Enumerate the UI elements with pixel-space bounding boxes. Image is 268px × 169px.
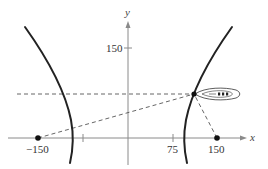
hyperbola-diagram: x y −150 75 150 150 bbox=[0, 0, 268, 169]
tick-label-neg150: −150 bbox=[26, 143, 49, 155]
boat-icon bbox=[195, 88, 240, 100]
tick-label-y150: 150 bbox=[106, 42, 123, 54]
left-focus-point bbox=[35, 135, 41, 141]
dashed-line-left-focus bbox=[38, 94, 194, 138]
dashed-line-right-focus bbox=[194, 94, 217, 138]
ship-point bbox=[191, 91, 196, 96]
right-focus-point bbox=[214, 135, 220, 141]
tick-label-75: 75 bbox=[167, 143, 179, 155]
x-axis-label: x bbox=[249, 131, 255, 143]
y-axis-arrow-icon bbox=[126, 21, 131, 28]
y-axis-label: y bbox=[124, 6, 130, 18]
tick-label-150: 150 bbox=[208, 143, 225, 155]
x-axis-arrow-icon bbox=[240, 136, 247, 141]
